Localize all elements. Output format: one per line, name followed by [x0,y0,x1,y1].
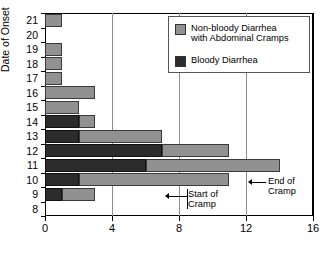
y-axis-label-19: 19 [8,44,38,55]
chart-legend: Non-bloody Diarrhea with Abdominal Cramp… [168,16,310,73]
bar-segment-bloody [45,159,146,172]
legend-item-bloody: Bloody Diarrhea [175,55,258,67]
annotation-end-line2: Cramp [268,186,296,196]
epidemic-curve-chart: 21201918171615141312111098 0481216 Date … [0,0,327,256]
bar-segment-nonbloody [79,173,230,186]
y-axis-label-17: 17 [8,73,38,84]
y-axis-label-14: 14 [8,117,38,128]
x-axis-tick-16 [313,216,314,221]
x-axis-label-8: 8 [159,222,199,234]
y-axis-tick [41,100,46,101]
bar-segment-bloody [45,173,79,186]
y-axis-tick [41,144,46,145]
legend-swatch-bloody-icon [175,56,186,67]
bar-segment-nonbloody [45,43,62,56]
y-axis-tick [41,202,46,203]
y-axis-tick [41,71,46,72]
bar-segment-nonbloody [45,101,79,114]
y-axis-label-18: 18 [8,59,38,70]
y-axis-tick [41,42,46,43]
x-axis-label-16: 16 [293,222,327,234]
y-axis-tick [41,57,46,58]
bar-segment-bloody [45,115,79,128]
y-axis-label-12: 12 [8,146,38,157]
x-axis-tick-12 [246,216,247,221]
y-axis-label-13: 13 [8,131,38,142]
annotation-start-arrow-line [169,196,187,197]
y-axis-tick [41,115,46,116]
y-axis-label-11: 11 [8,160,38,171]
bar-segment-bloody [45,144,162,157]
y-axis-tick [41,28,46,29]
bar-segment-nonbloody [79,130,163,143]
bar-segment-bloody [45,188,62,201]
legend-swatch-nonbloody-icon [175,24,186,35]
y-axis-tick [41,187,46,188]
bar-segment-nonbloody [45,86,95,99]
x-axis-label-0: 0 [25,222,65,234]
y-axis-title: Date of Onset [0,7,11,72]
x-axis-label-12: 12 [226,222,266,234]
legend-item-nonbloody: Non-bloody Diarrhea with Abdominal Cramp… [175,23,289,44]
bar-segment-nonbloody [146,159,280,172]
y-axis-label-8: 8 [8,204,38,215]
x-axis-tick-4 [112,216,113,221]
x-axis-tick-8 [179,216,180,221]
annotation-start-line2: Cramp [188,199,216,209]
y-axis-tick [41,173,46,174]
annotation-start-of-cramp: Start of Cramp [188,189,218,209]
bar-segment-nonbloody [45,57,62,70]
y-axis-tick [41,13,46,14]
annotation-end-line1: End of [268,176,295,186]
plot-frame-right [312,13,313,216]
annotation-end-arrow-line [252,182,266,183]
y-axis-label-16: 16 [8,88,38,99]
x-axis-label-4: 4 [92,222,132,234]
y-axis-label-20: 20 [8,30,38,41]
annotation-end-of-cramp: End of Cramp [268,176,296,196]
legend-label-nonbloody: Non-bloody Diarrhea with Abdominal Cramp… [191,23,289,44]
legend-label-nonbloody-line2: with Abdominal Cramps [191,33,289,43]
y-axis-label-15: 15 [8,102,38,113]
y-axis-label-21: 21 [8,15,38,26]
bar-segment-nonbloody [62,188,96,201]
bar-segment-nonbloody [162,144,229,157]
annotation-start-stem [187,189,188,209]
bar-segment-nonbloody [45,72,62,85]
bar-segment-nonbloody [79,115,96,128]
bar-segment-bloody [45,130,79,143]
legend-label-nonbloody-line1: Non-bloody Diarrhea [191,23,277,33]
annotation-end-arrow-head-icon [248,179,252,185]
y-axis-label-10: 10 [8,175,38,186]
legend-label-bloody: Bloody Diarrhea [191,55,258,65]
annotation-start-line1: Start of [188,189,218,199]
annotation-start-arrow-head-icon [165,193,169,199]
x-axis-tick-0 [45,216,46,221]
y-axis-tick [41,86,46,87]
bar-segment-nonbloody [45,14,62,27]
y-axis-tick [41,158,46,159]
y-axis-tick [41,129,46,130]
y-axis-label-9: 9 [8,189,38,200]
